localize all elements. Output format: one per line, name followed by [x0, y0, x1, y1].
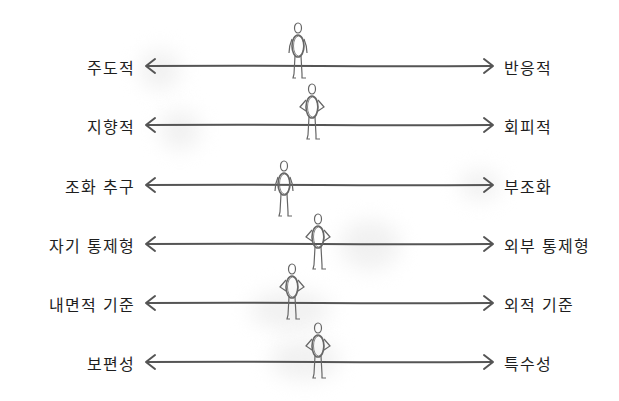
right-pole-label: 외적 기준	[504, 292, 574, 316]
stick-figure-icon	[283, 22, 313, 84]
stick-figure-icon	[303, 322, 333, 384]
left-pole-label: 보편성	[87, 351, 135, 375]
left-pole-label: 지향적	[87, 114, 135, 138]
right-pole-label: 반응적	[504, 55, 552, 79]
right-pole-label: 특수성	[504, 351, 552, 375]
stick-figure-icon	[297, 83, 327, 145]
left-pole-label: 조화 추구	[65, 174, 135, 198]
right-pole-label: 회피적	[504, 114, 552, 138]
stick-figure-icon	[303, 213, 333, 275]
double-headed-arrow-icon	[140, 56, 500, 76]
left-pole-label: 주도적	[87, 55, 135, 79]
double-headed-arrow-icon	[140, 293, 500, 313]
left-pole-label: 자기 통제형	[49, 233, 135, 257]
right-pole-label: 부조화	[504, 174, 552, 198]
right-pole-label: 외부 통제형	[504, 233, 590, 257]
stick-figure-icon	[269, 160, 299, 222]
double-headed-arrow-icon	[140, 175, 500, 195]
left-pole-label: 내면적 기준	[49, 292, 135, 316]
stick-figure-icon	[277, 263, 307, 325]
